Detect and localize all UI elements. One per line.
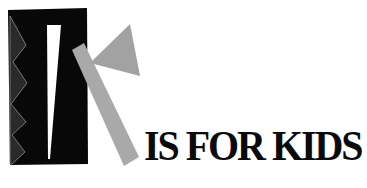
headline-text: IS FOR KIDS [144,124,362,167]
k-arm-triangle [90,24,140,76]
